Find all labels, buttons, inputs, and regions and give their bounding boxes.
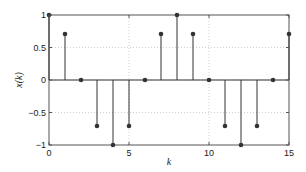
y-tick-label: −0.5 [28, 108, 46, 118]
stem-marker [63, 32, 68, 37]
y-tick-label: 0.5 [33, 43, 46, 53]
stem-marker [239, 143, 244, 148]
x-tick-label: 0 [46, 148, 51, 158]
stem-marker [223, 124, 228, 129]
stem-marker [111, 143, 116, 148]
x-tick-label: 15 [284, 148, 294, 158]
stem-plot: 051015 10.50−0.5−1 k x(k) [0, 0, 306, 172]
stem-marker [255, 124, 260, 129]
stem-marker [287, 32, 292, 37]
y-tick-label: 1 [41, 10, 46, 20]
x-tick-label: 10 [204, 148, 214, 158]
stem-marker [207, 78, 212, 83]
stem-marker [191, 32, 196, 37]
stem-marker [143, 78, 148, 83]
stem-marker [95, 124, 100, 129]
stem-marker [159, 32, 164, 37]
x-axis-label: k [167, 156, 172, 167]
stem-marker [175, 13, 180, 18]
stem-marker [79, 78, 84, 83]
stem-marker [127, 124, 132, 129]
x-tick-label: 5 [126, 148, 131, 158]
y-axis-label: x(k) [13, 72, 25, 89]
y-tick-label: −1 [36, 140, 46, 150]
stem-marker [271, 78, 276, 83]
y-tick-label: 0 [41, 75, 46, 85]
